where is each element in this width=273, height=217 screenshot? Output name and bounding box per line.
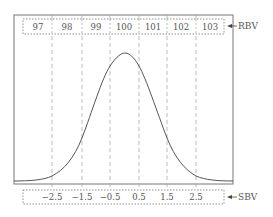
sbv-value: −2.5 — [42, 192, 63, 202]
guide-lines — [52, 15, 196, 192]
rbv-value: 101 — [145, 22, 161, 32]
sbv-value: 1.5 — [160, 192, 174, 202]
rbv-value: 100 — [116, 22, 132, 32]
sbv-label: SBV — [238, 192, 258, 202]
sbv-value: −0.5 — [100, 192, 121, 202]
rbv-value: 102 — [173, 22, 189, 32]
rbv-value: 103 — [202, 22, 218, 32]
rbv-label: RBV — [238, 21, 258, 31]
plot-frame — [14, 15, 233, 184]
rbv-value: 98 — [62, 22, 73, 32]
sbv-value: −1.5 — [72, 192, 93, 202]
rbv-value: 97 — [33, 22, 44, 32]
rbv-value: 99 — [91, 22, 102, 32]
bell-curve-diagram: 97 98 99 100 101 102 103 RBV −2.5 −1.5 −… — [0, 0, 273, 217]
bell-curve — [14, 53, 233, 181]
sbv-value: 2.5 — [189, 192, 203, 202]
sbv-value: 0.5 — [132, 192, 146, 202]
